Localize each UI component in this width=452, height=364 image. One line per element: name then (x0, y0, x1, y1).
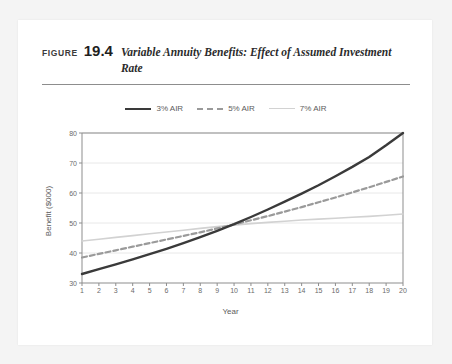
y-tick-label: 40 (69, 250, 77, 257)
x-tick-label: 17 (348, 287, 356, 294)
x-tick-label: 12 (264, 287, 272, 294)
y-tick-label: 70 (69, 160, 77, 167)
y-tick-label: 80 (69, 130, 77, 137)
x-tick-label: 11 (247, 287, 254, 294)
figure-label: FIGURE (42, 48, 78, 58)
line-chart: 3040506070801234567891011121314151617181… (48, 125, 413, 305)
y-tick-label: 50 (69, 220, 77, 227)
legend-item-5air: 5% AIR (197, 104, 255, 113)
x-tick-label: 19 (382, 287, 390, 294)
x-tick-label: 5 (148, 287, 152, 294)
x-tick-label: 6 (165, 287, 169, 294)
x-tick-label: 3 (114, 287, 118, 294)
y-tick-label: 60 (69, 190, 77, 197)
x-tick-label: 13 (281, 287, 289, 294)
x-tick-label: 7 (181, 287, 185, 294)
figure-title-row: FIGURE 19.4 Variable Annuity Benefits: E… (42, 42, 412, 76)
chart-legend: 3% AIR 5% AIR 7% AIR (42, 104, 410, 113)
legend-swatch-dashed-gray (197, 108, 223, 110)
legend-label-7air: 7% AIR (300, 104, 327, 113)
x-tick-label: 4 (131, 287, 135, 294)
figure-number: 19.4 (84, 42, 113, 59)
x-tick-label: 2 (97, 287, 101, 294)
legend-swatch-solid-dark (125, 108, 151, 110)
x-tick-label: 10 (230, 287, 238, 294)
x-tick-label: 16 (332, 287, 340, 294)
x-tick-label: 18 (365, 287, 373, 294)
title-divider (42, 84, 410, 85)
x-tick-label: 9 (215, 287, 219, 294)
legend-swatch-solid-light (269, 108, 295, 109)
x-tick-label: 20 (399, 287, 407, 294)
page-title: Variable Annuity Benefits: Effect of Ass… (121, 45, 412, 76)
legend-item-7air: 7% AIR (269, 104, 327, 113)
legend-label-3air: 3% AIR (156, 104, 183, 113)
chart-plot-area: Benefit ($000) 3040506070801234567891011… (48, 125, 413, 320)
x-axis-label: Year (48, 307, 413, 316)
legend-item-3air: 3% AIR (125, 104, 183, 113)
y-tick-label: 30 (69, 280, 77, 287)
legend-label-5air: 5% AIR (228, 104, 255, 113)
figure-header: FIGURE 19.4 Variable Annuity Benefits: E… (42, 42, 412, 76)
x-tick-label: 1 (80, 287, 84, 294)
x-tick-label: 8 (198, 287, 202, 294)
x-tick-label: 15 (315, 287, 323, 294)
series-line-7air (82, 214, 403, 241)
x-tick-label: 14 (298, 287, 306, 294)
figure-card: FIGURE 19.4 Variable Annuity Benefits: E… (18, 20, 432, 345)
